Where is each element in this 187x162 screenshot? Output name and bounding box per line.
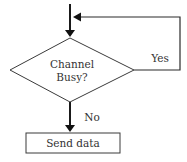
decision-text-line2: Busy? bbox=[56, 71, 88, 83]
no-arrowhead bbox=[65, 125, 75, 132]
flowchart: Channel Busy? Yes No Send data bbox=[0, 0, 187, 162]
send-data-label: Send data bbox=[46, 137, 100, 149]
decision-diamond bbox=[10, 38, 134, 102]
yes-label: Yes bbox=[150, 52, 169, 64]
no-label: No bbox=[84, 111, 100, 123]
yes-loop-arrowhead bbox=[73, 13, 81, 22]
entry-arrowhead bbox=[65, 30, 75, 37]
decision-text-line1: Channel bbox=[50, 58, 95, 70]
